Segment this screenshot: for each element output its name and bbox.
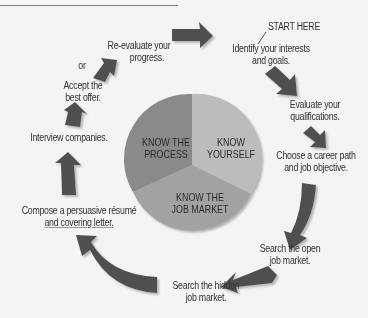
step-evaluate-line2: qualifications. xyxy=(271,111,359,123)
step-search-hidden: Search the hidden job market. xyxy=(162,280,250,304)
pie-label-process-line1: KNOW THE xyxy=(136,136,196,148)
step-compose-line2: and covering letter. xyxy=(13,217,145,229)
pie-label-process-line2: PROCESS xyxy=(136,148,196,160)
step-identify-line2: and goals. xyxy=(214,55,328,67)
arrow-up-2 xyxy=(64,102,87,127)
pie-label-job-market-line1: KNOW THE xyxy=(166,191,234,203)
step-compose-line1: Compose a persuasive résumé xyxy=(13,205,145,217)
or-label: or xyxy=(73,60,91,72)
step-search-open-line1: Search the open xyxy=(246,243,334,255)
step-choose-line1: Choose a career path xyxy=(265,150,367,162)
arrow-curve-up-left xyxy=(76,235,157,293)
pie-label-job-market: KNOW THE JOB MARKET xyxy=(166,191,234,215)
step-interview: Interview companies. xyxy=(21,132,118,144)
arrow-up-1 xyxy=(55,152,81,195)
pie-label-process: KNOW THE PROCESS xyxy=(136,136,196,160)
arrow-right-top xyxy=(172,22,213,48)
pie-label-job-market-line2: JOB MARKET xyxy=(166,203,234,215)
arrow-down-right-1 xyxy=(265,66,297,96)
step-search-hidden-line2: job market. xyxy=(162,292,250,304)
step-interview-line1: Interview companies. xyxy=(21,132,118,144)
step-reevaluate-line1: Re-evaluate your xyxy=(101,40,177,52)
step-evaluate-line1: Evaluate your xyxy=(271,99,359,111)
step-reevaluate-line2: progress. xyxy=(101,52,177,64)
step-accept-line1: Accept the xyxy=(52,80,114,92)
step-search-open: Search the open job market. xyxy=(246,243,334,267)
step-choose: Choose a career path and job objective. xyxy=(265,150,367,174)
pie-label-yourself-line1: KNOW xyxy=(206,136,257,148)
start-here-label: START HERE xyxy=(259,21,329,33)
step-accept-line2: best offer. xyxy=(52,92,114,104)
step-accept: Accept the best offer. xyxy=(52,80,114,104)
step-reevaluate: Re-evaluate your progress. xyxy=(101,40,177,64)
step-choose-line2: and job objective. xyxy=(265,162,367,174)
step-search-hidden-line1: Search the hidden xyxy=(162,280,250,292)
pie-label-yourself-line2: YOURSELF xyxy=(206,148,257,160)
arrow-down-right-2 xyxy=(303,126,326,148)
step-identify-line1: Identify your interests xyxy=(214,43,328,55)
step-identify: Identify your interests and goals. xyxy=(214,43,328,67)
step-compose: Compose a persuasive résumé and covering… xyxy=(13,205,145,229)
step-evaluate: Evaluate your qualifications. xyxy=(271,99,359,123)
arrow-curve-down xyxy=(284,183,316,250)
pie-label-yourself: KNOW YOURSELF xyxy=(206,136,257,160)
step-search-open-line2: job market. xyxy=(246,255,334,267)
